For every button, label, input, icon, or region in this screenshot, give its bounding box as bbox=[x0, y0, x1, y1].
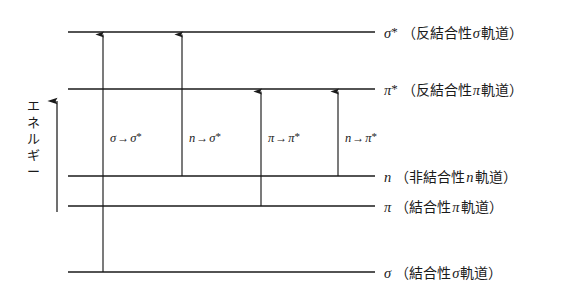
level-desc-symbol-sigma: σ bbox=[451, 265, 460, 281]
level-desc-prefix-n: （非結合性 bbox=[395, 170, 465, 185]
transition-to-superscript-2: * bbox=[215, 130, 221, 142]
level-desc-prefix-pi: （結合性 bbox=[395, 200, 451, 215]
transition-label-n-to-pi-star: n→π* bbox=[345, 129, 377, 145]
level-desc-symbol-pi: π bbox=[451, 199, 460, 215]
level-desc-suffix-pi-star: 軌道） bbox=[481, 83, 523, 98]
transition-arrow-glyph-4: → bbox=[351, 131, 365, 145]
transition-arrow-glyph-1: → bbox=[116, 131, 130, 145]
energy-caption-char-1: エ bbox=[22, 98, 44, 115]
transition-arrows bbox=[103, 35, 338, 273]
transition-to-superscript-3: * bbox=[295, 130, 301, 142]
energy-caption-char-3: ル bbox=[22, 131, 44, 148]
transition-arrow-glyph-3: → bbox=[274, 131, 288, 145]
mo-energy-diagram: エ ネ ル ギ ー σ*（反結合性σ軌道） π*（反結合性π軌道） n（非結合性… bbox=[0, 0, 569, 293]
level-desc-prefix-pi-star: （反結合性 bbox=[402, 83, 472, 98]
transition-to-superscript-4: * bbox=[372, 130, 378, 142]
transition-label-pi-to-pi-star: π→π* bbox=[268, 129, 300, 145]
transition-arrow-glyph-2: → bbox=[195, 131, 209, 145]
energy-level-lines bbox=[68, 32, 375, 272]
level-desc-suffix-sigma: 軌道） bbox=[460, 266, 502, 281]
level-desc-symbol-n: n bbox=[465, 169, 474, 185]
level-label-n: n（非結合性n軌道） bbox=[384, 168, 517, 186]
level-label-pi-star: π*（反結合性π軌道） bbox=[384, 81, 523, 99]
level-superscript-sigma-star: * bbox=[391, 24, 398, 39]
level-desc-prefix-sigma: （結合性 bbox=[395, 266, 451, 281]
level-desc-suffix-n: 軌道） bbox=[475, 170, 517, 185]
transition-label-n-to-sigma-star: n→σ* bbox=[189, 129, 221, 145]
level-label-sigma: σ（結合性σ軌道） bbox=[384, 264, 502, 282]
diagram-canvas bbox=[0, 0, 569, 293]
level-symbol-pi: π bbox=[384, 199, 391, 215]
level-symbol-sigma: σ bbox=[384, 265, 391, 281]
level-desc-suffix-sigma-star: 軌道） bbox=[481, 26, 523, 41]
level-desc-suffix-pi: 軌道） bbox=[461, 200, 503, 215]
level-desc-prefix-sigma-star: （反結合性 bbox=[402, 26, 472, 41]
transition-to-superscript-1: * bbox=[136, 130, 142, 142]
energy-caption-char-2: ネ bbox=[22, 115, 44, 132]
energy-caption-char-5: ー bbox=[22, 164, 44, 181]
transition-label-sigma-to-sigma-star: σ→σ* bbox=[110, 129, 142, 145]
energy-axis-caption: エ ネ ル ギ ー bbox=[22, 98, 44, 181]
level-superscript-pi-star: * bbox=[391, 81, 398, 96]
energy-caption-char-4: ギ bbox=[22, 148, 44, 165]
level-desc-symbol-pi-star: π bbox=[472, 82, 481, 98]
level-desc-symbol-sigma-star: σ bbox=[472, 25, 481, 41]
level-label-pi: π（結合性π軌道） bbox=[384, 198, 503, 216]
level-label-sigma-star: σ*（反結合性σ軌道） bbox=[384, 24, 523, 42]
level-symbol-n: n bbox=[384, 169, 391, 185]
